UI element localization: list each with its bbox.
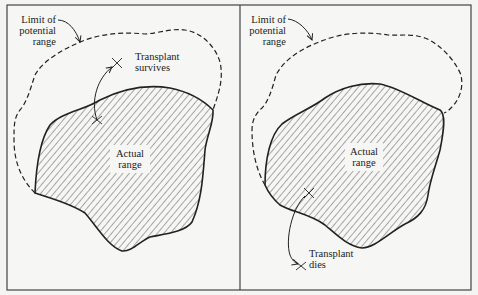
actual-range-label-line2: range <box>352 157 376 168</box>
limit-label-line1: Limit of <box>251 14 286 25</box>
limit-label-line2: potential <box>249 25 286 36</box>
limit-label-line3: range <box>33 36 57 47</box>
actual-range-label-line2: range <box>118 159 142 170</box>
limit-label-line2: potential <box>19 25 56 36</box>
limit-label-line1: Limit of <box>21 14 56 25</box>
actual-range-label-line1: Actual <box>350 146 378 157</box>
transplant-label-line2: survives <box>135 62 170 73</box>
transplant-label-line2: dies <box>309 259 326 270</box>
actual-range-label-line1: Actual <box>116 148 144 159</box>
transplant-label-line1: Transplant <box>135 51 180 62</box>
range-transplant-diagram: Limit of potential range Transplant surv… <box>0 0 478 295</box>
transplant-label-line1: Transplant <box>309 248 354 259</box>
limit-label-line3: range <box>263 36 287 47</box>
